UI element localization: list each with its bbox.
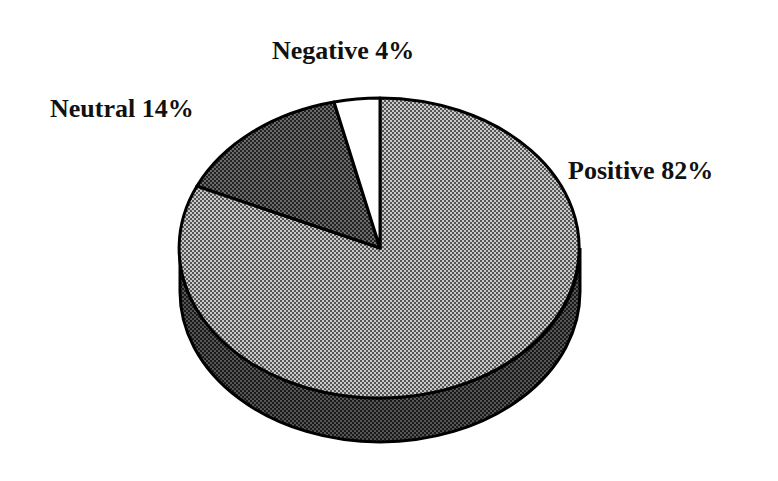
label-negative: Negative 4% bbox=[272, 38, 414, 64]
label-positive: Positive 82% bbox=[568, 158, 713, 184]
label-neutral: Neutral 14% bbox=[50, 96, 194, 122]
pie-chart bbox=[0, 0, 778, 481]
